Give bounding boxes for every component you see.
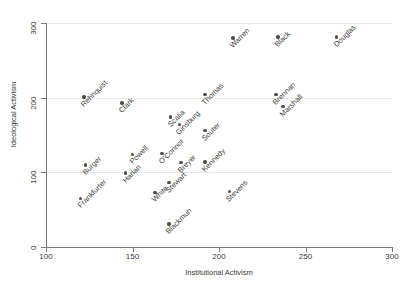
data-point-label: White: [150, 184, 170, 204]
data-point: [203, 93, 206, 96]
data-point: [281, 105, 284, 108]
y-tick-100: [41, 172, 46, 173]
data-point: [178, 123, 181, 126]
x-tick-label-300: 300: [372, 252, 412, 261]
x-tick-label-150: 150: [113, 252, 153, 261]
data-point: [160, 152, 163, 155]
data-point: [167, 181, 170, 184]
plot-area: FrankfurterBurgerRehnquistClarkHarlanPow…: [46, 23, 392, 247]
data-point: [179, 161, 182, 164]
data-point: [335, 35, 338, 38]
y-tick-300: [41, 23, 46, 24]
y-axis-line: [46, 23, 47, 247]
y-tick-label-100: 100: [29, 171, 38, 201]
data-point-label: Frankfurter: [75, 178, 107, 210]
data-point: [228, 190, 231, 193]
data-point: [203, 160, 206, 163]
gridline-y-300: [46, 23, 392, 24]
data-point: [167, 222, 170, 225]
data-point: [131, 153, 134, 156]
x-tick-label-200: 200: [199, 252, 239, 261]
x-tick-label-100: 100: [26, 252, 66, 261]
data-point: [276, 35, 279, 38]
data-point: [79, 197, 82, 200]
data-point-label: Blackmun: [164, 206, 194, 236]
scatter-plot: FrankfurterBurgerRehnquistClarkHarlanPow…: [0, 0, 412, 297]
data-point: [153, 191, 156, 194]
data-point: [231, 36, 234, 39]
gridline-y-100: [46, 172, 392, 173]
x-tick-label-250: 250: [286, 252, 326, 261]
data-point-label: Black: [273, 30, 292, 49]
data-point-label: Rehnquist: [79, 78, 109, 108]
x-axis-title: Institutional Activism: [46, 268, 392, 277]
data-point: [274, 93, 277, 96]
y-tick-200: [41, 98, 46, 99]
y-tick-label-200: 200: [29, 96, 38, 126]
y-axis-title: Ideological Activism: [9, 55, 18, 175]
y-tick-label-300: 300: [29, 22, 38, 52]
gridline-y-200: [46, 98, 392, 99]
data-point: [169, 115, 172, 118]
data-point: [124, 171, 127, 174]
data-point: [84, 163, 87, 166]
data-point: [203, 129, 206, 132]
data-point: [120, 101, 123, 104]
data-point: [82, 95, 85, 98]
